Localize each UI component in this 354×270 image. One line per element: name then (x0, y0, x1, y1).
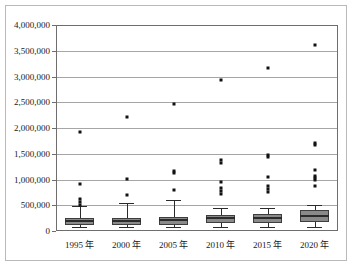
whisker-cap-lower (166, 227, 181, 228)
outlier-point (314, 169, 317, 172)
outlier-point (267, 67, 270, 70)
median-line (112, 220, 141, 222)
outlier-point (220, 79, 223, 82)
whisker-cap-upper (260, 208, 275, 209)
median-line (159, 219, 188, 221)
y-axis-tick-label: 0 (46, 226, 51, 236)
outlier-point (220, 192, 223, 195)
y-axis-tick-label: 1,500,000 (14, 149, 50, 159)
y-axis-tick-label: 2,000,000 (14, 123, 50, 133)
y-axis-tick-label: 2,500,000 (14, 97, 50, 107)
box-plot-chart: 0500,0001,000,0001,500,0002,000,0002,500… (0, 0, 354, 270)
whisker-cap-lower (72, 227, 87, 228)
outlier-point (267, 185, 270, 188)
outlier-point (79, 203, 82, 206)
outlier-point (267, 188, 270, 191)
whisker-upper (174, 200, 175, 217)
outlier-point (79, 197, 82, 200)
outlier-point (220, 159, 223, 162)
whisker-cap-upper (307, 205, 322, 206)
outlier-point (126, 177, 129, 180)
plot-border (56, 25, 338, 231)
x-axis-tick-label: 2005 年 (159, 238, 188, 251)
outlier-point (314, 141, 317, 144)
outlier-point (79, 201, 82, 204)
x-axis-tick-label: 2010 年 (206, 238, 235, 251)
outlier-point (314, 184, 317, 187)
whisker-cap-lower (213, 227, 228, 228)
outlier-point (267, 176, 270, 179)
whisker-cap-upper (213, 208, 228, 209)
x-axis-tick-label: 2020 年 (300, 238, 329, 251)
y-axis-tick-label: 3,000,000 (14, 72, 50, 82)
whisker-cap-lower (260, 227, 275, 228)
median-line (206, 217, 235, 219)
whisker-cap-upper (166, 200, 181, 201)
outlier-point (126, 193, 129, 196)
outlier-point (267, 153, 270, 156)
y-tick-mark (52, 231, 56, 232)
x-axis-tick-label: 2015 年 (253, 238, 282, 251)
whisker-cap-lower (119, 227, 134, 228)
outlier-point (220, 190, 223, 193)
outlier-point (126, 115, 129, 118)
outlier-point (173, 103, 176, 106)
outlier-point (314, 44, 317, 47)
median-line (300, 215, 329, 217)
whisker-upper (80, 206, 81, 218)
outlier-point (220, 187, 223, 190)
x-axis-tick-label: 1995 年 (65, 238, 94, 251)
median-line (253, 217, 282, 219)
x-axis-tick-label: 2000 年 (112, 238, 141, 251)
y-axis-tick-label: 4,000,000 (14, 20, 50, 30)
outlier-point (267, 190, 270, 193)
outlier-point (79, 182, 82, 185)
outlier-point (173, 188, 176, 191)
outlier-point (173, 170, 176, 173)
outlier-point (220, 181, 223, 184)
whisker-cap-upper (119, 203, 134, 204)
whisker-upper (127, 203, 128, 218)
y-axis-tick-label: 1,000,000 (14, 175, 50, 185)
median-line (65, 220, 94, 222)
outlier-point (79, 131, 82, 134)
outlier-point (314, 174, 317, 177)
y-axis-tick-label: 3,500,000 (14, 46, 50, 56)
y-axis-tick-label: 500,000 (21, 200, 50, 210)
whisker-cap-lower (307, 227, 322, 228)
